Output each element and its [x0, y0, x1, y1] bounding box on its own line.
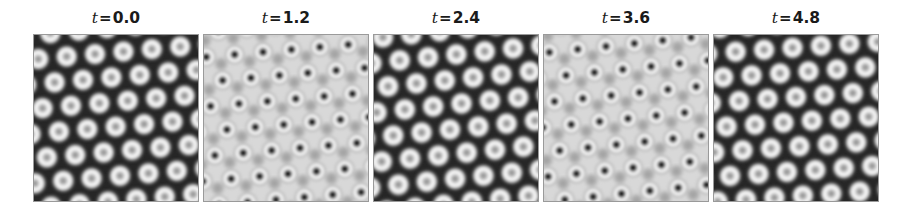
simulation-panel-1	[33, 34, 199, 202]
hex-ring-field-5	[713, 34, 879, 202]
panel-title-value: 3.6	[623, 9, 650, 27]
panel-title-equals: =	[778, 9, 793, 27]
panel-title-value: 0.0	[113, 9, 140, 27]
figure-panel-grid: t=0.0	[0, 0, 902, 218]
simulation-panel-4	[543, 34, 709, 202]
simulation-panel-2	[203, 34, 369, 202]
panel-title-value: 2.4	[453, 9, 480, 27]
hex-ring-field-1	[33, 34, 199, 202]
hex-ring-field-3	[373, 34, 539, 202]
panel-title-5: t=4.8	[713, 8, 879, 28]
panel-title-value: 4.8	[793, 9, 820, 27]
panel-title-1: t=0.0	[33, 8, 199, 28]
panel-title-4: t=3.6	[543, 8, 709, 28]
panel-title-2: t=1.2	[203, 8, 369, 28]
panel-title-equals: =	[608, 9, 623, 27]
simulation-panel-5	[713, 34, 879, 202]
hex-spot-field-4	[543, 34, 709, 202]
panel-title-equals: =	[268, 9, 283, 27]
simulation-panel-3	[373, 34, 539, 202]
hex-spot-field-2	[203, 34, 369, 202]
panel-title-equals: =	[438, 9, 453, 27]
panel-title-value: 1.2	[283, 9, 310, 27]
panel-title-equals: =	[98, 9, 113, 27]
panel-title-3: t=2.4	[373, 8, 539, 28]
